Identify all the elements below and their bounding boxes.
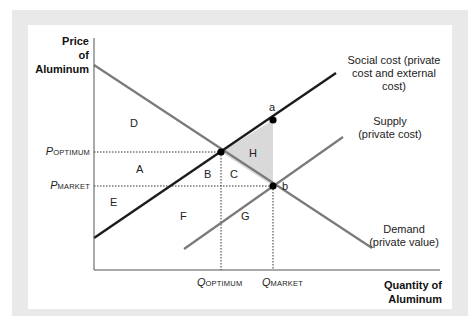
point-b — [269, 182, 276, 189]
social-cost-label: Social cost (private cost and external c… — [336, 54, 452, 93]
point-a-label: a — [269, 101, 275, 113]
y-axis-title: Price of Aluminum — [35, 34, 89, 76]
q-optimum-label: QOPTIMUM — [197, 276, 242, 288]
q-market-subscript: MARKET — [271, 279, 303, 288]
social-cost-label-line-2: cost and external — [336, 67, 452, 80]
demand-label-line-1: Demand — [362, 223, 446, 236]
x-axis-title: Quantity of Aluminum — [384, 278, 442, 306]
optimum-point — [217, 148, 224, 155]
y-axis-title-line-3: Aluminum — [35, 62, 89, 76]
p-market-label: PMARKET — [50, 179, 90, 191]
y-axis-title-line-2: of — [35, 48, 89, 62]
demand-curve — [94, 65, 372, 248]
social-cost-label-line-1: Social cost (private — [336, 54, 452, 67]
point-a — [269, 116, 276, 123]
q-market-symbol: Q — [262, 276, 271, 288]
x-axis-title-line-2: Aluminum — [384, 292, 442, 306]
q-optimum-symbol: Q — [197, 276, 206, 288]
region-c: C — [230, 168, 238, 180]
supply-label-line-2: (private cost) — [348, 128, 432, 141]
demand-label: Demand (private value) — [362, 223, 446, 249]
region-d: D — [130, 117, 138, 129]
p-optimum-label: POPTIMUM — [46, 145, 90, 157]
y-axis-title-line-1: Price — [35, 34, 89, 48]
q-optimum-subscript: OPTIMUM — [206, 279, 243, 288]
region-g: G — [241, 210, 250, 222]
supply-label-line-1: Supply — [348, 115, 432, 128]
social-cost-curve — [94, 73, 336, 238]
region-b: B — [204, 168, 211, 180]
p-market-subscript: MARKET — [58, 182, 90, 191]
p-market-symbol: P — [50, 179, 57, 191]
region-a: A — [136, 163, 143, 175]
x-axis-title-line-1: Quantity of — [384, 278, 442, 292]
p-optimum-subscript: OPTIMUM — [53, 148, 90, 157]
q-market-label: QMARKET — [262, 276, 303, 288]
point-b-label: b — [282, 180, 288, 192]
social-cost-label-line-3: cost) — [336, 80, 452, 93]
region-f: F — [180, 210, 187, 222]
region-e: E — [110, 196, 117, 208]
supply-label: Supply (private cost) — [348, 115, 432, 141]
region-h: H — [249, 147, 257, 159]
demand-label-line-2: (private value) — [362, 236, 446, 249]
